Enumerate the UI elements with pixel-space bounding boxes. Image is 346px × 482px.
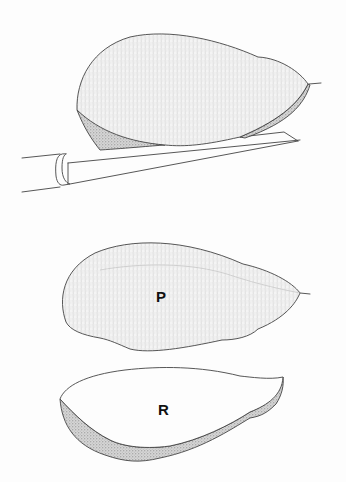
illustration-canvas [0,0,346,482]
flake-face [77,34,308,146]
label-p: P [156,289,166,304]
hafted-view [22,34,321,192]
view-p [62,243,310,351]
label-r: R [158,402,169,417]
view-r [60,368,283,462]
flake-p-face [62,243,300,351]
